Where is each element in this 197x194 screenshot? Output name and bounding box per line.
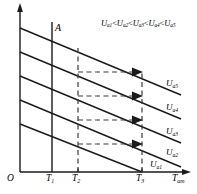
curve-label-ua1: Ua1 [150, 160, 162, 169]
x-tick-label-t1: T1 [46, 174, 54, 184]
ineq-term-2: Ua2 [117, 18, 128, 28]
inequality-annotation: Ua1<Ua2<Ua3<Ua4<Ua5 [101, 19, 175, 28]
transfer-arrow-4 [78, 140, 143, 149]
transfer-arrow-2 [78, 92, 143, 101]
ineq-term-5: Ua5 [164, 18, 175, 28]
transfer-arrow-3 [78, 116, 143, 125]
curve-label-ua4: Ua4 [166, 103, 178, 112]
origin-label: O [7, 174, 14, 184]
curve-label-ua2: Ua2 [166, 148, 178, 157]
x-tick-label-t3: T3 [136, 174, 144, 184]
ineq-term-4: Ua4 [148, 18, 159, 28]
curve-ua1 [20, 124, 142, 172]
point-a-label: A [55, 23, 61, 33]
ineq-term-1: Ua1 [101, 18, 112, 28]
ineq-term-3: Ua3 [133, 18, 144, 28]
characteristic-curve-diagram [0, 0, 197, 194]
x-axis-label: Tam [172, 174, 184, 184]
transfer-arrow-1 [78, 68, 143, 77]
curve-label-ua3: Ua3 [166, 127, 178, 136]
characteristic-lines [20, 28, 181, 172]
figure-container: O A T1 T2 T3 Tam Ua5 Ua4 Ua3 Ua2 Ua1 Ua1… [0, 0, 197, 194]
curve-label-ua5: Ua5 [166, 79, 178, 88]
x-tick-label-t2: T2 [72, 174, 80, 184]
